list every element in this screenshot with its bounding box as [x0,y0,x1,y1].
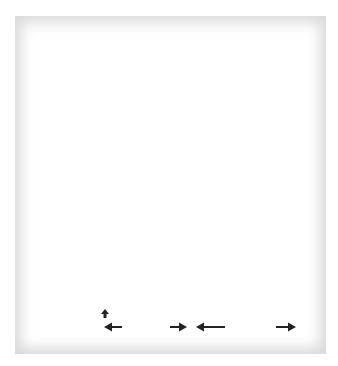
minutes-left-arrow-icon [196,323,225,332]
chart-canvas [0,0,338,366]
minutes-right-arrow-icon [276,323,296,332]
seconds-left-arrow-icon [104,323,122,332]
start-up-arrow-icon [101,309,109,318]
seconds-right-arrow-icon [170,323,187,332]
x-unit-labels [101,309,296,332]
